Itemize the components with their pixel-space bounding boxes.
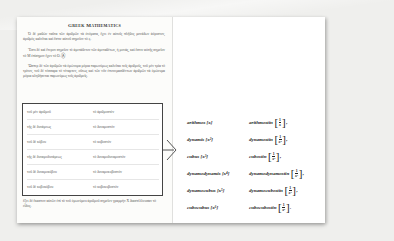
connector-arrow xyxy=(0,0,345,241)
